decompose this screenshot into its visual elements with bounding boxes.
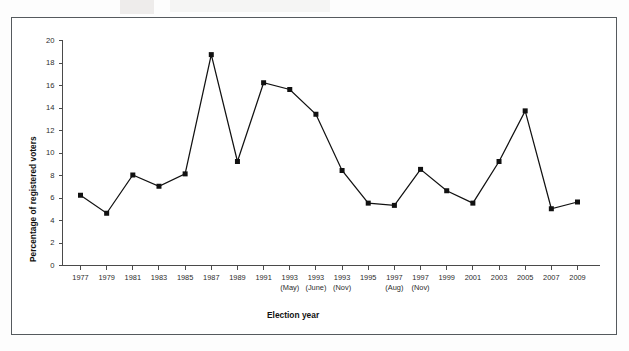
x-tick-label: 2007	[543, 273, 559, 282]
x-tick-sublabel: (Aug)	[385, 283, 403, 292]
data-point-marker	[444, 188, 449, 193]
x-tick-label: 1993	[308, 273, 324, 282]
y-tick-label: 0	[50, 261, 54, 270]
x-tick-label: 1987	[203, 273, 219, 282]
y-axis-title: Percentage of registered voters	[28, 136, 38, 262]
x-tick-sublabel: (June)	[305, 283, 326, 292]
x-tick-label: 1981	[125, 273, 141, 282]
x-tick-label: 1991	[255, 273, 271, 282]
data-point-marker	[183, 171, 188, 176]
data-point-marker	[470, 201, 475, 206]
x-tick-label: 2009	[569, 273, 585, 282]
data-point-marker	[261, 80, 266, 85]
y-tick-label: 8	[50, 171, 54, 180]
x-tick-label: 1979	[98, 273, 114, 282]
data-point-marker	[313, 112, 318, 117]
data-point-marker	[340, 168, 345, 173]
x-tick-label: 1995	[360, 273, 376, 282]
x-tick-label: 1997	[386, 273, 402, 282]
y-tick-label: 10	[46, 148, 54, 157]
y-tick-label: 2	[50, 238, 54, 247]
data-series-line	[81, 55, 578, 214]
x-tick-label: 1993	[334, 273, 350, 282]
y-tick-label: 6	[50, 193, 54, 202]
x-tick-label: 1989	[229, 273, 245, 282]
x-tick-label: 1993	[282, 273, 298, 282]
x-tick-sublabel: (May)	[280, 283, 299, 292]
x-tick-sublabel: (Nov)	[412, 283, 430, 292]
x-tick-label: 1999	[438, 273, 454, 282]
x-tick-label: 2003	[491, 273, 507, 282]
data-point-marker	[287, 87, 292, 92]
data-point-marker	[156, 184, 161, 189]
data-point-markers	[78, 52, 580, 216]
x-tick-label: 2005	[517, 273, 533, 282]
y-tick-label: 16	[46, 81, 54, 90]
x-tick-label: 1997	[412, 273, 428, 282]
y-tick-labels: 02468101214161820	[46, 36, 54, 270]
x-tick-labels: 197719791981198319851987198919911993(May…	[72, 273, 585, 292]
data-point-marker	[235, 159, 240, 164]
y-tick-marks	[59, 41, 63, 266]
x-tick-sublabel: (Nov)	[333, 283, 351, 292]
y-tick-label: 20	[46, 36, 54, 45]
data-point-marker	[523, 108, 528, 113]
x-tick-label: 1983	[151, 273, 167, 282]
figure-root: 02468101214161820 1977197919811983198519…	[0, 0, 629, 351]
x-tick-label: 1985	[177, 273, 193, 282]
y-tick-label: 18	[46, 58, 54, 67]
data-point-marker	[392, 203, 397, 208]
data-point-marker	[78, 193, 83, 198]
data-point-marker	[130, 173, 135, 178]
data-point-marker	[418, 167, 423, 172]
x-tick-label: 2001	[465, 273, 481, 282]
data-point-marker	[575, 200, 580, 205]
line-chart: 02468101214161820 1977197919811983198519…	[0, 0, 629, 351]
y-tick-label: 12	[46, 126, 54, 135]
y-tick-label: 14	[46, 103, 54, 112]
data-point-marker	[209, 52, 214, 57]
y-tick-label: 4	[50, 216, 54, 225]
x-tick-label: 1977	[72, 273, 88, 282]
data-point-marker	[497, 159, 502, 164]
data-point-marker	[366, 201, 371, 206]
data-point-marker	[104, 211, 109, 216]
data-point-marker	[549, 206, 554, 211]
x-axis-title: Election year	[267, 310, 320, 320]
